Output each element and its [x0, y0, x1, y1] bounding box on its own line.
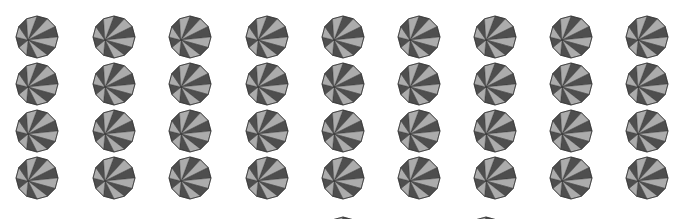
pinwheel-icon	[168, 109, 212, 153]
pinwheel-icon	[168, 156, 212, 200]
pinwheel-icon	[397, 109, 441, 153]
pinwheel-icon	[473, 15, 517, 59]
pinwheel-icon	[625, 15, 669, 59]
pinwheel-icon	[397, 15, 441, 59]
pinwheel-icon	[321, 109, 365, 153]
pinwheel-icon	[549, 109, 593, 153]
pinwheel-icon	[549, 15, 593, 59]
pinwheel-icon	[92, 156, 136, 200]
pinwheel-icon	[397, 156, 441, 200]
pinwheel-icon	[473, 109, 517, 153]
pinwheel-icon	[168, 62, 212, 106]
pinwheel-icon	[321, 15, 365, 59]
pinwheel-icon	[245, 156, 289, 200]
pinwheel-icon	[549, 62, 593, 106]
pinwheel-icon	[625, 62, 669, 106]
pinwheel-icon	[321, 216, 365, 219]
pinwheel-icon	[15, 15, 59, 59]
pinwheel-icon	[168, 15, 212, 59]
pinwheel-icon	[245, 15, 289, 59]
pinwheel-icon	[549, 156, 593, 200]
pinwheel-icon	[464, 216, 508, 219]
pinwheel-icon	[397, 62, 441, 106]
pinwheel-icon	[625, 109, 669, 153]
pinwheel-icon	[473, 156, 517, 200]
pinwheel-icon	[625, 156, 669, 200]
pinwheel-icon	[321, 156, 365, 200]
pinwheel-icon	[92, 62, 136, 106]
pinwheel-icon	[245, 62, 289, 106]
pinwheel-icon	[245, 109, 289, 153]
pinwheel-icon	[15, 62, 59, 106]
pinwheel-icon	[92, 109, 136, 153]
pinwheel-icon	[92, 15, 136, 59]
pinwheel-icon	[15, 156, 59, 200]
pinwheel-icon	[473, 62, 517, 106]
pinwheel-icon	[15, 109, 59, 153]
pinwheel-icon	[321, 62, 365, 106]
pinwheel-grid	[0, 0, 686, 219]
